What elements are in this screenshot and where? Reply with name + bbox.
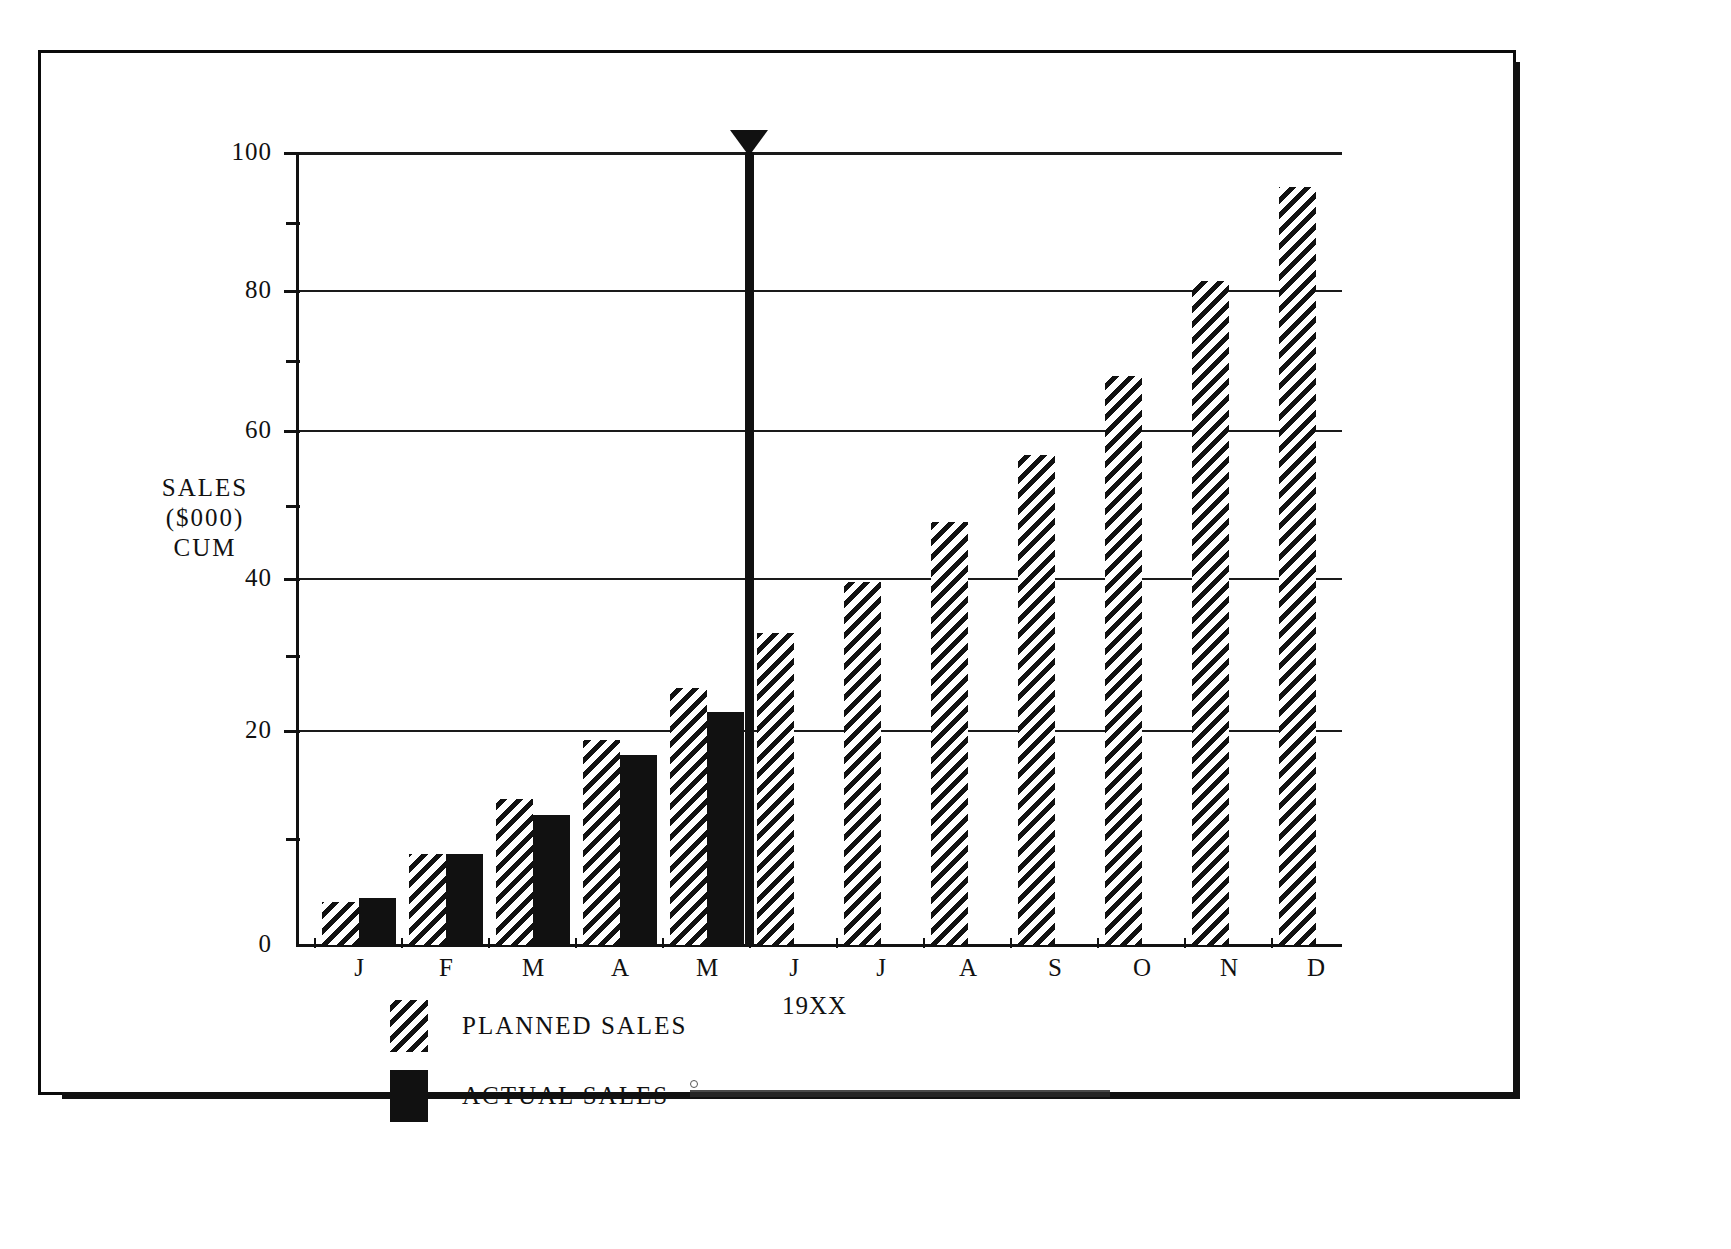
chart-page: 100 80 60 40 20 0 SALES ($000) CUM JFMAM… — [0, 0, 1731, 1249]
x-tick-6 — [836, 938, 838, 948]
current-period-marker-line — [745, 152, 754, 947]
bar-planned-11 — [1279, 187, 1316, 945]
bar-planned-9 — [1105, 376, 1142, 945]
x-axis-title: 19XX — [782, 992, 847, 1020]
x-tick-3 — [575, 938, 577, 948]
bar-planned-3 — [583, 740, 620, 945]
legend-swatch-hatched-icon — [390, 1000, 428, 1052]
x-tick-label-4: M — [687, 954, 727, 982]
legend-swatch-solid-icon — [390, 1070, 428, 1122]
x-tick-8 — [1010, 938, 1012, 948]
bars-container — [0, 0, 1731, 947]
x-tick-label-11: D — [1296, 954, 1336, 982]
x-tick-label-10: N — [1209, 954, 1249, 982]
current-period-arrow-icon — [730, 130, 768, 156]
bar-planned-2 — [496, 799, 533, 945]
bar-actual-1 — [446, 854, 483, 945]
bar-planned-6 — [844, 582, 881, 945]
x-tick-label-7: A — [948, 954, 988, 982]
bar-planned-7 — [931, 522, 968, 945]
legend-label-planned: PLANNED SALES — [462, 1012, 687, 1040]
bar-actual-0 — [359, 898, 396, 945]
x-tick-1 — [401, 938, 403, 948]
bar-planned-0 — [322, 902, 359, 945]
x-tick-7 — [923, 938, 925, 948]
x-tick-label-5: J — [774, 954, 814, 982]
x-tick-11 — [1271, 938, 1273, 948]
legend-label-actual: ACTUAL SALES — [462, 1082, 669, 1110]
bar-planned-4 — [670, 688, 707, 945]
x-tick-label-3: A — [600, 954, 640, 982]
x-tick-label-9: O — [1122, 954, 1162, 982]
bar-actual-4 — [707, 712, 744, 945]
x-tick-9 — [1097, 938, 1099, 948]
x-tick-label-2: M — [513, 954, 553, 982]
chart-plot-area: 100 80 60 40 20 0 SALES ($000) CUM JFMAM… — [0, 0, 1731, 1249]
x-tick-label-0: J — [339, 954, 379, 982]
x-tick-0 — [314, 938, 316, 948]
bar-planned-8 — [1018, 455, 1055, 945]
x-tick-2 — [488, 938, 490, 948]
x-tick-label-8: S — [1035, 954, 1075, 982]
bar-actual-2 — [533, 815, 570, 945]
x-tick-label-1: F — [426, 954, 466, 982]
x-tick-label-6: J — [861, 954, 901, 982]
bar-planned-10 — [1192, 281, 1229, 945]
bar-planned-5 — [757, 633, 794, 945]
x-tick-4 — [662, 938, 664, 948]
bar-actual-3 — [620, 755, 657, 945]
bar-planned-1 — [409, 854, 446, 945]
x-tick-10 — [1184, 938, 1186, 948]
